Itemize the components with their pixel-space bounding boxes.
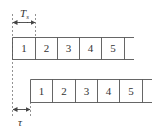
bottom-cell-2: 2 <box>61 85 67 97</box>
top-cell-3: 3 <box>66 42 72 54</box>
bottom-cell-1: 1 <box>39 85 45 97</box>
tau-label: τ <box>18 116 23 128</box>
bottom-cell-5: 5 <box>128 85 134 97</box>
top-cell-5: 5 <box>110 42 116 54</box>
bottom-cell-4: 4 <box>106 85 112 97</box>
bottom-row <box>31 80 153 103</box>
tau-dimension: τ <box>13 110 30 129</box>
top-row <box>13 38 135 60</box>
top-cell-2: 2 <box>44 42 50 54</box>
top-cell-1: 1 <box>21 42 27 54</box>
top-cell-4: 4 <box>88 42 94 54</box>
timing-diagram: Ts 1 2 3 4 5 1 2 3 4 5 <box>0 0 162 132</box>
bottom-cell-3: 3 <box>84 85 90 97</box>
ts-label: Ts <box>20 7 29 21</box>
ts-dimension: Ts <box>13 7 35 23</box>
